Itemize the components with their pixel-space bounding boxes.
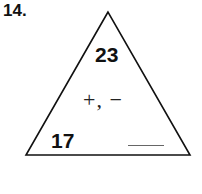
triangle-top-number: 23 xyxy=(95,44,118,65)
answer-blank[interactable] xyxy=(128,145,164,146)
triangle-bottom-left-number: 17 xyxy=(51,130,74,151)
triangle-operations: +, − xyxy=(83,89,123,111)
